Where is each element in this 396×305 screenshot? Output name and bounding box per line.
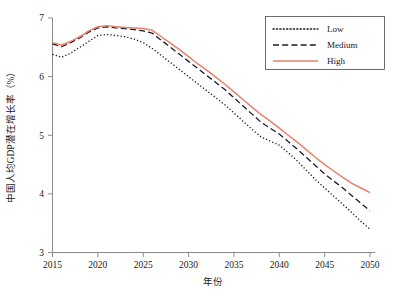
x-tick-label: 2045 xyxy=(315,260,334,270)
x-tick-label: 2030 xyxy=(179,260,198,270)
legend-label-low: Low xyxy=(327,24,344,34)
x-tick-label: 2020 xyxy=(88,260,107,270)
y-tick-label: 6 xyxy=(39,72,44,82)
x-tick-label: 2025 xyxy=(134,260,153,270)
x-tick-label: 2015 xyxy=(43,260,62,270)
y-axis-title: 中国人均GDP潜在增长率（%） xyxy=(5,67,16,204)
x-axis-ticks: 20152020202520302035204020452050 xyxy=(43,253,380,271)
y-tick-label: 3 xyxy=(39,248,44,258)
y-axis-ticks: 34567 xyxy=(39,13,52,258)
x-tick-label: 2050 xyxy=(361,260,380,270)
x-tick-label: 2040 xyxy=(270,260,289,270)
chart-figure: 34567 20152020202520302035204020452050 中… xyxy=(0,0,396,305)
chart-legend: LowMediumHigh xyxy=(266,17,385,70)
line-chart: 34567 20152020202520302035204020452050 中… xyxy=(0,0,396,305)
y-tick-label: 4 xyxy=(39,189,44,199)
y-tick-label: 7 xyxy=(39,13,44,23)
x-tick-label: 2035 xyxy=(224,260,243,270)
x-axis-title: 年份 xyxy=(203,276,223,287)
legend-label-medium: Medium xyxy=(327,40,358,50)
legend-label-high: High xyxy=(327,56,346,66)
y-tick-label: 5 xyxy=(39,131,44,141)
